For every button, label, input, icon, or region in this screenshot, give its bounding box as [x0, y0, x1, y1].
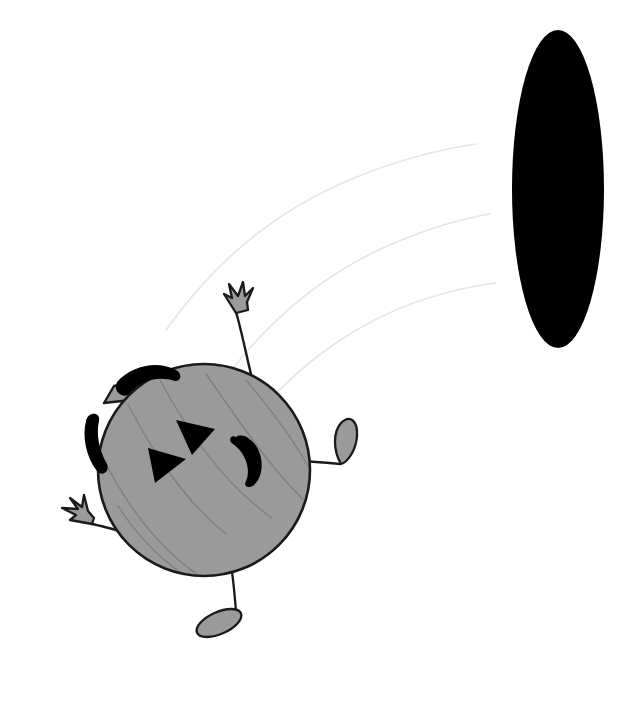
- pumpkin-body: [98, 364, 310, 576]
- scene-root: A round gray pumpkin-like cartoon creatu…: [0, 0, 642, 717]
- scene-canvas: [0, 0, 642, 717]
- black-ellipse-ball: [512, 30, 604, 348]
